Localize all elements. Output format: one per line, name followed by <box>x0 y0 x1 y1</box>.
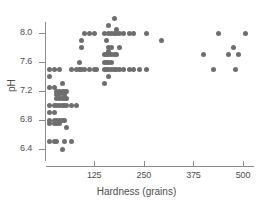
data-point <box>57 67 62 72</box>
y-tick-label: 6.4 <box>8 143 32 153</box>
data-point <box>54 139 59 144</box>
x-tick-label: 500 <box>228 170 258 180</box>
y-tick-mark <box>39 33 46 34</box>
plot-area: 6.46.87.27.68.0 125250375500 pH Hardness… <box>0 0 273 207</box>
data-point <box>201 52 206 57</box>
data-point <box>159 38 164 43</box>
x-tick-mark <box>144 161 145 167</box>
x-tick-mark <box>243 161 244 167</box>
data-point <box>60 147 65 152</box>
data-point <box>47 74 52 79</box>
data-point <box>104 38 109 43</box>
y-tick-label: 7.6 <box>8 56 32 66</box>
data-point <box>144 31 149 36</box>
y-tick-mark <box>39 149 46 150</box>
x-tick-mark <box>193 161 194 167</box>
data-point <box>236 52 241 57</box>
data-point <box>117 45 122 50</box>
data-point <box>131 31 136 36</box>
data-point <box>109 60 114 65</box>
x-tick-label: 125 <box>79 170 109 180</box>
data-point <box>60 81 65 86</box>
y-tick-label: 6.8 <box>8 114 32 124</box>
x-axis-title: Hardness (grains) <box>0 186 273 197</box>
data-point <box>74 103 79 108</box>
data-point <box>64 125 69 130</box>
x-axis-line <box>46 166 254 167</box>
data-point <box>69 139 74 144</box>
data-point <box>114 52 119 57</box>
data-point <box>109 45 114 50</box>
x-tick-label: 250 <box>129 170 159 180</box>
y-tick-mark <box>39 62 46 63</box>
data-point <box>62 139 67 144</box>
data-point <box>102 81 107 86</box>
data-point <box>79 45 84 50</box>
scatter-plot-figure: 6.46.87.27.68.0 125250375500 pH Hardness… <box>0 0 273 207</box>
data-point <box>112 16 117 21</box>
data-point <box>231 45 236 50</box>
data-point <box>62 118 67 123</box>
data-point <box>211 67 216 72</box>
data-point <box>64 89 69 94</box>
data-point <box>106 23 111 28</box>
y-tick-label: 8.0 <box>8 27 32 37</box>
data-point <box>106 74 111 79</box>
data-point <box>226 52 231 57</box>
data-point <box>94 67 99 72</box>
data-point <box>243 31 248 36</box>
data-point <box>64 96 69 101</box>
data-point <box>131 67 136 72</box>
data-point <box>121 31 126 36</box>
y-axis-title: pH <box>6 79 17 92</box>
data-point <box>137 67 142 72</box>
data-point <box>52 110 57 115</box>
data-point <box>233 67 238 72</box>
data-point <box>77 60 82 65</box>
data-point <box>92 31 97 36</box>
data-point <box>144 67 149 72</box>
x-tick-label: 375 <box>178 170 208 180</box>
data-point <box>121 67 126 72</box>
x-tick-mark <box>94 161 95 167</box>
y-tick-mark <box>39 120 46 121</box>
y-tick-mark <box>39 91 46 92</box>
data-point <box>216 31 221 36</box>
data-point <box>79 38 84 43</box>
